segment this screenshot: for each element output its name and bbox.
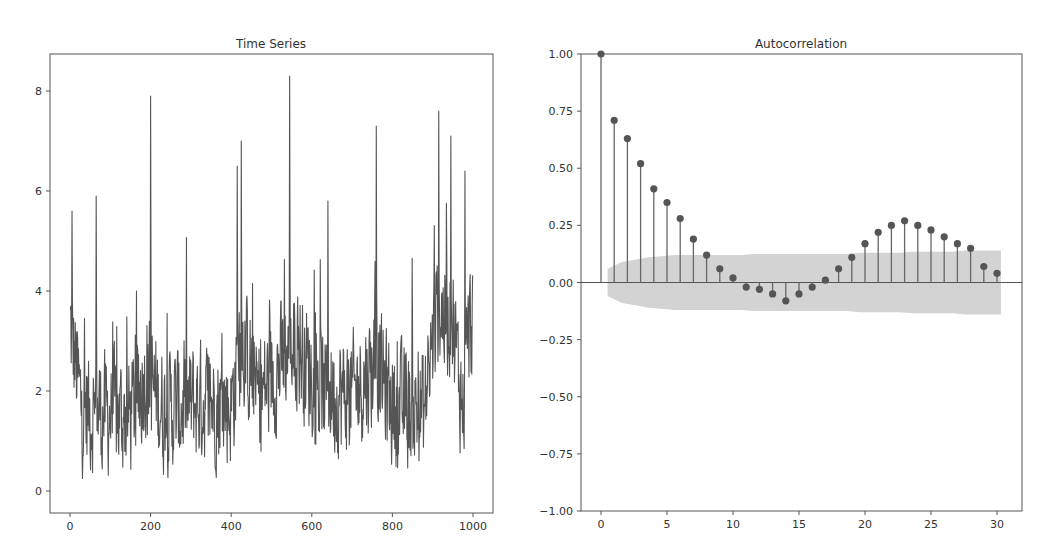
autocorrelation-chart: Autocorrelation 051015202530 1.000.750.5…	[539, 37, 1022, 531]
acf-marker	[663, 199, 670, 206]
acf-marker	[835, 265, 842, 272]
acf-marker	[888, 222, 895, 229]
y-tick-label: 2	[35, 385, 42, 398]
acf-marker	[861, 240, 868, 247]
acf-marker	[875, 229, 882, 236]
x-tick-label: 600	[301, 520, 322, 533]
time-series-title: Time Series	[235, 37, 306, 51]
x-tick-label: 0	[67, 520, 74, 533]
y-tick-label: −0.75	[539, 448, 573, 461]
acf-marker	[993, 270, 1000, 277]
acf-marker	[809, 283, 816, 290]
acf-marker	[822, 277, 829, 284]
time-series-path	[70, 76, 473, 479]
x-tick-label: 1000	[459, 520, 487, 533]
time-series-y-axis: 02468	[35, 85, 50, 498]
y-tick-label: 0.75	[549, 105, 574, 118]
x-tick-label: 200	[140, 520, 161, 533]
y-tick-label: 4	[35, 285, 42, 298]
acf-marker	[914, 222, 921, 229]
x-tick-label: 5	[664, 518, 671, 531]
autocorrelation-title: Autocorrelation	[755, 37, 847, 51]
y-tick-label: 0.25	[549, 219, 574, 232]
acf-marker	[795, 290, 802, 297]
x-tick-label: 400	[221, 520, 242, 533]
acf-marker	[743, 283, 750, 290]
acf-marker	[624, 135, 631, 142]
time-series-x-axis: 02004006008001000	[67, 513, 488, 533]
acf-marker	[650, 185, 657, 192]
y-tick-label: 0.50	[549, 162, 574, 175]
x-tick-label: 15	[792, 518, 806, 531]
y-tick-label: 0.00	[549, 277, 574, 290]
acf-marker	[901, 217, 908, 224]
acf-marker	[954, 240, 961, 247]
autocorrelation-x-axis: 051015202530	[598, 511, 1005, 531]
time-series-line	[70, 76, 473, 479]
acf-marker	[941, 233, 948, 240]
y-tick-label: −0.25	[539, 334, 573, 347]
x-tick-label: 800	[382, 520, 403, 533]
acf-marker	[769, 290, 776, 297]
y-tick-label: 6	[35, 185, 42, 198]
acf-marker	[611, 117, 618, 124]
acf-marker	[716, 265, 723, 272]
acf-marker	[703, 251, 710, 258]
y-tick-label: 0	[35, 485, 42, 498]
acf-marker	[967, 245, 974, 252]
acf-marker	[729, 274, 736, 281]
y-tick-label: −0.50	[539, 391, 573, 404]
x-tick-label: 20	[858, 518, 872, 531]
x-tick-label: 10	[726, 518, 740, 531]
acf-marker	[677, 215, 684, 222]
y-tick-label: 8	[35, 85, 42, 98]
autocorrelation-y-axis: 1.000.750.500.250.00−0.25−0.50−0.75−1.00	[539, 48, 581, 518]
acf-marker	[782, 297, 789, 304]
x-tick-label: 30	[990, 518, 1004, 531]
acf-marker	[637, 160, 644, 167]
acf-marker	[927, 226, 934, 233]
y-tick-label: 1.00	[549, 48, 574, 61]
figure: Time Series 02004006008001000 02468 Auto…	[0, 0, 1049, 557]
acf-marker	[756, 286, 763, 293]
x-tick-label: 25	[924, 518, 938, 531]
acf-marker	[690, 235, 697, 242]
x-tick-label: 0	[598, 518, 605, 531]
time-series-chart: Time Series 02004006008001000 02468	[35, 37, 493, 533]
y-tick-label: −1.00	[539, 505, 573, 518]
acf-marker	[848, 254, 855, 261]
acf-marker	[980, 263, 987, 270]
